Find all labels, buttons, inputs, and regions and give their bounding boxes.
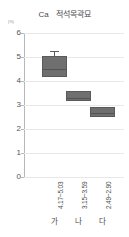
y-tick-label: 6 <box>3 29 21 37</box>
x-category-label: 나 <box>66 215 90 226</box>
y-tick-mark <box>21 153 24 154</box>
y-tick-mark <box>21 81 24 82</box>
y-axis-unit-label: (%) <box>8 19 14 24</box>
y-tick-label: 2 <box>3 125 21 133</box>
y-tick-mark <box>21 33 24 34</box>
y-tick-label: 4 <box>3 77 21 85</box>
y-tick-label: 3 <box>3 101 21 109</box>
x-category-label: 다 <box>90 215 114 226</box>
x-range-label: 2.49~2.90 <box>105 182 112 209</box>
x-category-label: 가 <box>42 215 66 226</box>
y-tick-mark <box>21 129 24 130</box>
gridline <box>24 129 124 130</box>
data-box <box>42 56 67 77</box>
data-box <box>66 91 91 102</box>
chart-container: Ca 적석목곽묘 (%) 6543210 4.17~5.03가3.15~3.59… <box>0 0 129 237</box>
y-tick-label: 5 <box>3 53 21 61</box>
y-tick-mark <box>21 57 24 58</box>
chart-title-element: Ca <box>38 10 48 19</box>
median-line <box>67 98 90 99</box>
y-tick-mark <box>21 177 24 178</box>
gridline <box>24 81 124 82</box>
whisker-cap <box>50 51 59 52</box>
chart-title: Ca 적석목곽묘 <box>0 8 129 19</box>
data-box <box>90 107 115 117</box>
gridline <box>24 153 124 154</box>
gridline <box>24 57 124 58</box>
median-line <box>43 69 66 70</box>
y-tick-label: 0 <box>3 173 21 181</box>
chart-title-korean: 적석목곽묘 <box>56 8 91 19</box>
x-range-label: 4.17~5.03 <box>57 182 64 209</box>
gridline <box>24 105 124 106</box>
plot-area <box>24 33 124 177</box>
x-range-label: 3.15~3.59 <box>81 182 88 209</box>
y-tick-mark <box>21 105 24 106</box>
median-line <box>91 113 114 114</box>
y-tick-label: 1 <box>3 149 21 157</box>
gridline <box>24 33 124 34</box>
gridline <box>24 177 124 178</box>
